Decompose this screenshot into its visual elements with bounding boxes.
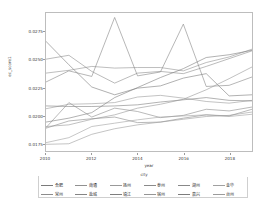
legend-item[interactable]: 泰州 (144, 182, 178, 188)
legend: city 合肥南通扬州泰州湖州金华常州盐城镇江宿州嘉兴台州 (38, 176, 248, 198)
legend-line-swatch (75, 185, 87, 186)
legend-item[interactable]: 台州 (213, 191, 247, 197)
series-lines (46, 13, 252, 151)
legend-items: 合肥南通扬州泰州湖州金华常州盐城镇江宿州嘉兴台州 (41, 182, 247, 197)
legend-label: 盐城 (89, 191, 97, 197)
y-tick-label: 0.0225 (28, 85, 43, 90)
legend-item[interactable]: 宿州 (144, 191, 178, 197)
legend-line-swatch (110, 185, 122, 186)
legend-item[interactable]: 镇江 (110, 191, 144, 197)
x-tick-mark (91, 153, 92, 155)
legend-label: 扬州 (123, 182, 131, 188)
legend-item[interactable]: 扬州 (110, 182, 144, 188)
y-tick-label: 0.0275 (28, 29, 43, 34)
x-tick-mark (45, 153, 46, 155)
chart-figure: 0.01750.02000.02250.02500.0275 ec_score1… (0, 0, 276, 208)
plot-area (45, 12, 253, 152)
series-line (46, 114, 252, 142)
legend-line-swatch (178, 185, 190, 186)
series-line (46, 17, 252, 86)
legend-line-swatch (178, 194, 190, 195)
legend-label: 湖州 (192, 182, 200, 188)
legend-item[interactable]: 嘉兴 (178, 191, 212, 197)
legend-item[interactable]: 合肥 (41, 182, 75, 188)
legend-item[interactable]: 南通 (75, 182, 109, 188)
legend-line-swatch (41, 185, 53, 186)
legend-label: 常州 (55, 191, 63, 197)
legend-label: 泰州 (157, 182, 165, 188)
legend-label: 金华 (226, 182, 234, 188)
legend-line-swatch (144, 194, 156, 195)
legend-label: 台州 (226, 191, 234, 197)
x-tick-label: 2012 (86, 156, 96, 161)
legend-line-swatch (144, 185, 156, 186)
legend-title: city (39, 172, 249, 177)
y-tick-label: 0.0175 (28, 142, 43, 147)
y-axis-title: ec_score1 (7, 47, 12, 87)
x-tick-mark (137, 153, 138, 155)
series-line (46, 98, 252, 107)
x-axis-title: year (45, 163, 253, 168)
legend-label: 宿州 (157, 191, 165, 197)
legend-line-swatch (75, 194, 87, 195)
x-tick-label: 2018 (225, 156, 235, 161)
series-line (46, 41, 252, 96)
legend-line-swatch (213, 194, 225, 195)
legend-line-swatch (213, 185, 225, 186)
x-tick-mark (230, 153, 231, 155)
legend-line-swatch (110, 194, 122, 195)
legend-label: 镇江 (123, 191, 131, 197)
series-line (46, 67, 252, 127)
x-tick-label: 2014 (132, 156, 142, 161)
legend-item[interactable]: 常州 (41, 191, 75, 197)
legend-item[interactable]: 金华 (213, 182, 247, 188)
x-tick-mark (184, 153, 185, 155)
y-tick-label: 0.0200 (28, 113, 43, 118)
x-tick-label: 2016 (178, 156, 188, 161)
legend-label: 合肥 (55, 182, 63, 188)
legend-item[interactable]: 盐城 (75, 191, 109, 197)
legend-label: 南通 (89, 182, 97, 188)
y-tick-label: 0.0250 (28, 57, 43, 62)
legend-item[interactable]: 湖州 (178, 182, 212, 188)
series-line (46, 112, 252, 144)
legend-line-swatch (41, 194, 53, 195)
legend-label: 嘉兴 (192, 191, 200, 197)
x-tick-label: 2010 (40, 156, 50, 161)
